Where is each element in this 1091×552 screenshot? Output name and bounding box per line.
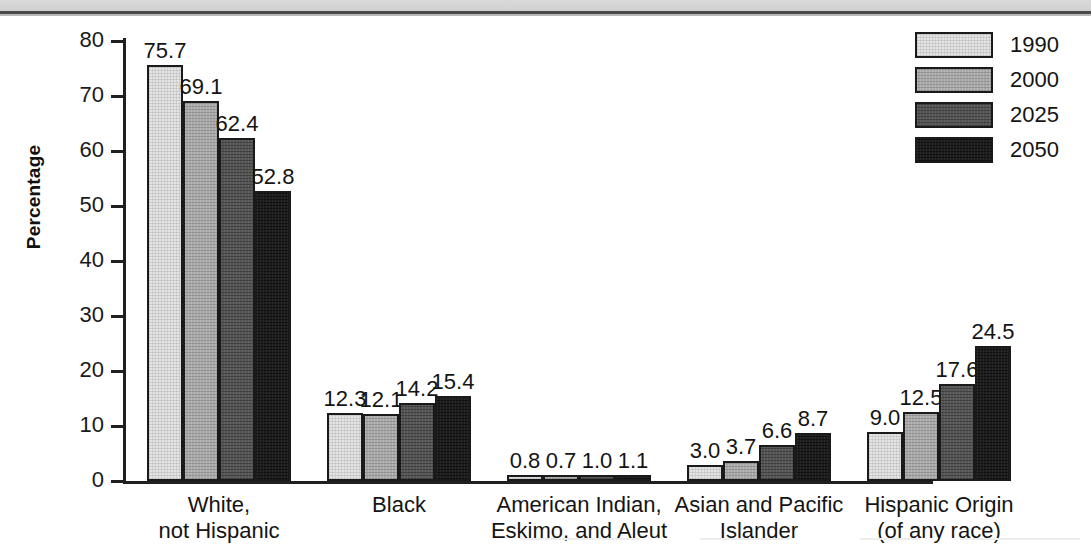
- y-axis-tick-label: 50: [52, 194, 104, 216]
- y-axis-tick-label: 30: [52, 304, 104, 326]
- y-axis-tick: [111, 40, 124, 43]
- bar[interactable]: 3.7: [723, 461, 759, 481]
- bar[interactable]: 3.0: [687, 465, 723, 482]
- y-axis-tick-label: 0: [52, 469, 104, 491]
- bar-value-label: 15.4: [432, 371, 475, 393]
- legend-swatch: [915, 32, 993, 58]
- bar-group: 3.03.76.68.7: [687, 41, 831, 481]
- legend-swatch: [915, 102, 993, 128]
- x-axis-category-label: Hispanic Origin(of any race): [799, 492, 1079, 544]
- bar[interactable]: 8.7: [795, 433, 831, 481]
- bar-value-label: 62.4: [216, 113, 259, 135]
- y-axis-tick: [111, 425, 124, 428]
- bar[interactable]: 12.5: [903, 412, 939, 481]
- scan-speck: [860, 538, 920, 540]
- scan-speck: [520, 538, 640, 540]
- legend-swatch: [915, 137, 993, 163]
- y-axis-tick-label: 80: [52, 29, 104, 51]
- bar-value-label: 9.0: [870, 407, 901, 429]
- category-label-line-2: not Hispanic: [79, 518, 359, 544]
- y-axis-tick-label: 60: [52, 139, 104, 161]
- bar[interactable]: 6.6: [759, 445, 795, 481]
- bar-value-label: 3.7: [726, 436, 757, 458]
- bar-value-label: 69.1: [180, 76, 223, 98]
- bar[interactable]: 0.8: [507, 475, 543, 481]
- bar[interactable]: 1.1: [615, 475, 651, 481]
- bar-value-label: 12.5: [900, 387, 943, 409]
- bar[interactable]: 52.8: [255, 191, 291, 481]
- bar-group: 75.769.162.452.8: [147, 41, 291, 481]
- bar[interactable]: 0.7: [543, 475, 579, 481]
- scan-speck: [1040, 538, 1080, 540]
- bar-value-label: 24.5: [972, 321, 1015, 343]
- bar[interactable]: 75.7: [147, 65, 183, 481]
- x-axis-line: [123, 481, 933, 484]
- y-axis-tick-label: 40: [52, 249, 104, 271]
- bar[interactable]: 15.4: [435, 396, 471, 481]
- category-label-line-1: White,: [188, 492, 250, 517]
- y-axis-title: Percentage: [23, 107, 45, 287]
- bar-value-label: 3.0: [690, 440, 721, 462]
- bar[interactable]: 17.6: [939, 384, 975, 481]
- bar[interactable]: 24.5: [975, 346, 1011, 481]
- category-label-line-1: Black: [372, 492, 426, 517]
- legend-label: 2000: [1010, 67, 1059, 93]
- bar[interactable]: 1.0: [579, 475, 615, 481]
- bar[interactable]: 62.4: [219, 138, 255, 481]
- y-axis-tick: [111, 150, 124, 153]
- bar-value-label: 1.0: [582, 450, 613, 472]
- legend-label: 1990: [1010, 32, 1059, 58]
- chart-page: Percentage 01020304050607080 75.769.162.…: [0, 0, 1091, 552]
- bar-value-label: 0.8: [510, 450, 541, 472]
- category-label-line-1: Hispanic Origin: [864, 492, 1013, 517]
- y-axis-tick-label: 70: [52, 84, 104, 106]
- bar-group: 0.80.71.01.1: [507, 41, 651, 481]
- legend-label: 2025: [1010, 102, 1059, 128]
- bar[interactable]: 12.3: [327, 413, 363, 481]
- y-axis-tick-label: 20: [52, 359, 104, 381]
- legend-label: 2050: [1010, 137, 1059, 163]
- y-axis-tick: [111, 260, 124, 263]
- bar[interactable]: 9.0: [867, 432, 903, 482]
- bar[interactable]: 14.2: [399, 403, 435, 481]
- scan-speck: [960, 538, 1040, 540]
- bar-value-label: 0.7: [546, 450, 577, 472]
- scan-speck: [700, 538, 790, 540]
- bar-value-label: 1.1: [618, 450, 649, 472]
- bar-value-label: 75.7: [144, 40, 187, 62]
- bar-value-label: 52.8: [252, 166, 295, 188]
- y-axis-tick: [111, 315, 124, 318]
- bar[interactable]: 12.1: [363, 414, 399, 481]
- y-axis-tick: [111, 370, 124, 373]
- bar-value-label: 17.6: [936, 359, 979, 381]
- bar-group: 12.312.114.215.4: [327, 41, 471, 481]
- legend-swatch: [915, 67, 993, 93]
- bar-value-label: 6.6: [762, 420, 793, 442]
- y-axis-tick: [111, 205, 124, 208]
- bar-value-label: 8.7: [798, 408, 829, 430]
- scan-horizontal-rule-soft: [0, 14, 1091, 16]
- category-label-line-2: (of any race): [799, 518, 1079, 544]
- bar[interactable]: 69.1: [183, 101, 219, 481]
- y-axis-tick-label: 10: [52, 414, 104, 436]
- y-axis-tick: [111, 95, 124, 98]
- y-axis-tick: [111, 480, 124, 483]
